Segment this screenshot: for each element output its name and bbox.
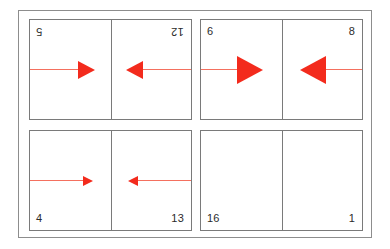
- arrow-head: [83, 176, 93, 186]
- cell-top-right-a: 6: [201, 20, 282, 119]
- cell-label: 6: [207, 26, 213, 37]
- outer-frame: 5 12 6: [18, 10, 372, 238]
- cell-top-right-b: 8: [282, 20, 363, 119]
- cell-label: 1: [349, 213, 355, 224]
- quadrant-bottom-left: 4 13: [29, 130, 192, 231]
- arrow-shaft: [30, 180, 86, 181]
- cell-label: 13: [171, 213, 184, 224]
- cell-top-left-b: 12: [111, 20, 192, 119]
- arrow-shaft: [30, 69, 82, 70]
- arrow-shaft: [139, 69, 191, 70]
- cell-label: 12: [171, 26, 184, 37]
- cell-label: 16: [207, 213, 220, 224]
- arrow-head: [300, 56, 326, 84]
- quadrant-bottom-right: 16 1: [200, 130, 363, 231]
- cell-bottom-right-a: 16: [201, 131, 282, 230]
- quadrant-top-right: 6 8: [200, 19, 363, 120]
- cell-bottom-right-b: 1: [282, 131, 363, 230]
- cell-label: 5: [36, 26, 42, 37]
- quadrant-grid: 5 12 6: [29, 19, 363, 231]
- arrow-head: [128, 176, 138, 186]
- arrow-head: [237, 56, 263, 84]
- cell-bottom-left-a: 4: [30, 131, 111, 230]
- arrow-shaft: [135, 180, 191, 181]
- cell-label: 8: [349, 26, 355, 37]
- arrow-head: [78, 61, 95, 79]
- diagram-page: 5 12 6: [0, 0, 390, 249]
- cell-bottom-left-b: 13: [111, 131, 192, 230]
- quadrant-top-left: 5 12: [29, 19, 192, 120]
- cell-top-left-a: 5: [30, 20, 111, 119]
- cell-label: 4: [36, 213, 42, 224]
- arrow-head: [126, 61, 143, 79]
- arrow-shaft: [320, 69, 362, 70]
